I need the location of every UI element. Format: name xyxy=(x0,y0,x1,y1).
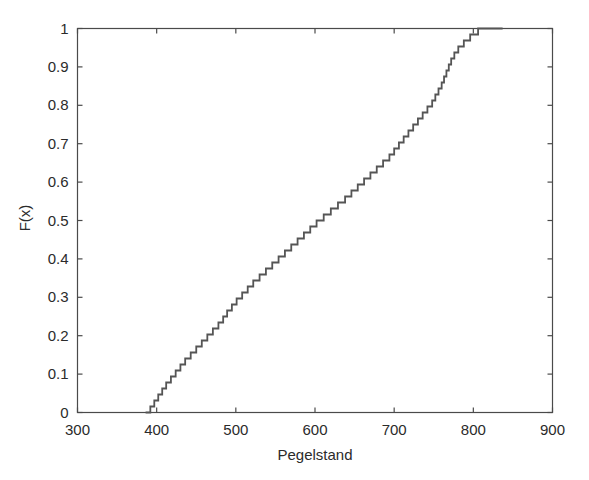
x-tick-label: 800 xyxy=(461,421,486,438)
y-tick-label: 0.6 xyxy=(48,173,69,190)
y-tick-label: 0.3 xyxy=(48,288,69,305)
x-tick-label: 500 xyxy=(223,421,248,438)
y-axis-title: F(x) xyxy=(16,205,33,232)
y-tick-label: 0.2 xyxy=(48,327,69,344)
y-tick-label: 0.4 xyxy=(48,250,69,267)
y-axis-tick-marks xyxy=(78,29,553,413)
plot-canvas: 300400500600700800900 00.10.20.30.40.50.… xyxy=(0,0,589,480)
ecdf-step-curve xyxy=(146,29,503,413)
x-tick-label: 400 xyxy=(144,421,169,438)
x-axis-tick-labels: 300400500600700800900 xyxy=(65,421,565,438)
y-axis-tick-labels: 00.10.20.30.40.50.60.70.80.91 xyxy=(48,20,69,421)
y-tick-label: 0.9 xyxy=(48,58,69,75)
y-tick-label: 0.8 xyxy=(48,96,69,113)
x-tick-label: 700 xyxy=(382,421,407,438)
y-tick-label: 0.5 xyxy=(48,212,69,229)
plot-frame xyxy=(78,29,553,413)
y-tick-label: 0.1 xyxy=(48,365,69,382)
x-axis-tick-marks xyxy=(78,29,553,413)
y-tick-label: 0.7 xyxy=(48,135,69,152)
x-axis-title: Pegelstand xyxy=(277,446,352,463)
x-tick-label: 900 xyxy=(540,421,565,438)
ecdf-figure: 300400500600700800900 00.10.20.30.40.50.… xyxy=(0,0,589,480)
y-tick-label: 0 xyxy=(60,404,68,421)
x-tick-label: 300 xyxy=(65,421,90,438)
y-tick-label: 1 xyxy=(60,20,68,37)
x-tick-label: 600 xyxy=(302,421,327,438)
